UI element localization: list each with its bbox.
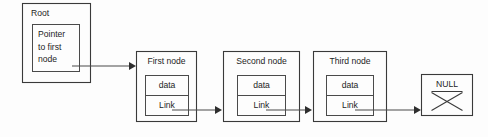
diagram-canvas: Root Pointer to first node First node da… bbox=[0, 0, 488, 137]
root-title-label: Root bbox=[31, 8, 50, 18]
linked-list-diagram: Root Pointer to first node First node da… bbox=[0, 0, 488, 137]
arrow-second-to-third-head bbox=[305, 106, 312, 114]
arrow-first-to-second-head bbox=[215, 106, 222, 114]
root-pointer-line-3: node bbox=[38, 54, 57, 64]
third-node-link-label: Link bbox=[342, 100, 358, 110]
node-block-third: Third node data Link bbox=[314, 52, 387, 122]
second-node-link-label: Link bbox=[254, 100, 270, 110]
first-node-data-label: data bbox=[159, 80, 176, 90]
first-node-title-label: First node bbox=[147, 56, 185, 66]
node-block-first: First node data Link bbox=[137, 52, 197, 122]
arrow-root-to-first-head bbox=[129, 62, 136, 70]
root-pointer-line-1: Pointer bbox=[38, 29, 65, 39]
arrow-third-to-null-head bbox=[414, 106, 421, 114]
null-terminator-block: NULL bbox=[422, 75, 473, 116]
root-pointer-line-2: to first bbox=[38, 42, 62, 52]
first-node-link-label: Link bbox=[159, 100, 175, 110]
node-block-second: Second node data Link bbox=[224, 52, 300, 122]
third-node-title-label: Third node bbox=[329, 56, 370, 66]
third-node-data-label: data bbox=[342, 80, 359, 90]
second-node-title-label: Second node bbox=[236, 56, 287, 66]
null-label: NULL bbox=[436, 79, 458, 89]
second-node-data-label: data bbox=[253, 80, 270, 90]
root-block: Root Pointer to first node bbox=[23, 4, 91, 83]
